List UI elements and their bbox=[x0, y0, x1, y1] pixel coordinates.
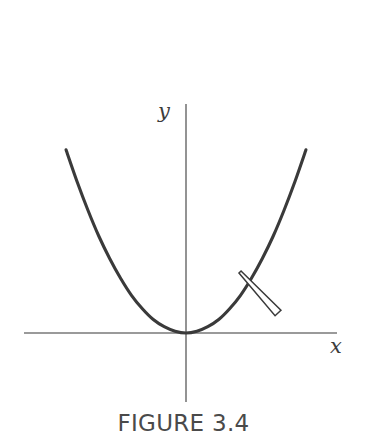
figure-caption: FIGURE 3.4 bbox=[0, 411, 367, 436]
figure-background bbox=[0, 0, 367, 443]
figure-container: y x FIGURE 3.4 bbox=[0, 0, 367, 443]
x-axis-label: x bbox=[330, 336, 342, 357]
figure-graphic bbox=[0, 0, 367, 443]
y-axis-label: y bbox=[158, 101, 170, 122]
